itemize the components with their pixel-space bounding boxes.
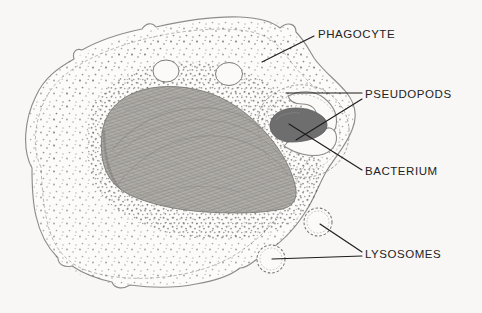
leader-lysosomes-upper: [320, 224, 362, 252]
label-lysosomes: LYSOSOMES: [365, 249, 441, 261]
label-phagocyte: PHAGOCYTE: [318, 29, 395, 41]
label-pseudopods: PSEUDOPODS: [365, 89, 452, 101]
vacuole-right: [216, 63, 243, 86]
lysosome-upper: [304, 208, 332, 236]
label-bacterium: BACTERIUM: [365, 166, 438, 178]
phagocyte-diagram-figure: PHAGOCYTE PSEUDOPODS BACTERIUM LYSOSOMES: [0, 0, 482, 313]
phagocyte-cell: [26, 15, 370, 295]
leader-lysosomes-lower: [272, 256, 362, 259]
diagram-canvas: [0, 0, 482, 313]
vacuole-left: [153, 60, 179, 82]
